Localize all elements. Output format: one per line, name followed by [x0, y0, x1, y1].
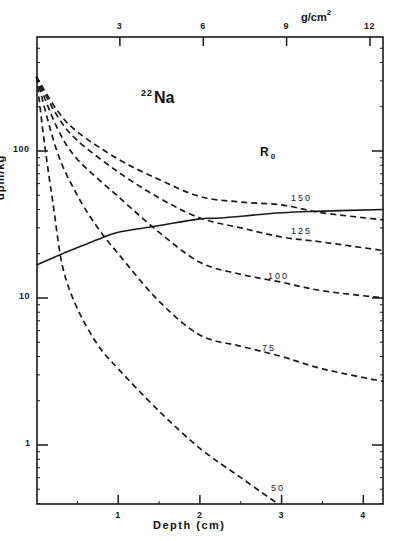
x2-tick-label: 12	[364, 21, 375, 31]
dashed-curve-r0-75	[37, 77, 384, 382]
curve-label-100: 100	[268, 271, 289, 281]
y-tick-label: 1	[25, 438, 31, 448]
x-tick-label: 4	[360, 510, 366, 520]
curve-label-75: 75	[262, 343, 276, 353]
curve-label-150: 150	[291, 193, 312, 203]
plot-border	[37, 37, 383, 504]
legend-title-base: R	[260, 145, 269, 159]
isotope-mass: 22	[141, 88, 153, 98]
curve-label-125: 125	[291, 226, 312, 236]
x2-tick-label: 6	[200, 21, 206, 31]
top-axis-unit-exp: 2	[327, 8, 331, 17]
legend-title-sub: 0	[271, 152, 275, 161]
x-tick-label: 2	[197, 510, 203, 520]
y-tick-label: 100	[13, 144, 30, 154]
top-axis-unit: g/cm2	[301, 8, 331, 23]
top-axis-unit-base: g/cm	[301, 11, 327, 23]
depth-profile-chart	[0, 0, 395, 541]
dashed-curve-r0-125	[37, 77, 384, 251]
solid-curve	[37, 210, 384, 265]
legend-title: R0	[260, 145, 275, 161]
x2-tick-label: 9	[284, 21, 290, 31]
data-curves	[37, 77, 384, 504]
dashed-curve-r0-100	[37, 77, 384, 298]
element-symbol: Na	[154, 89, 174, 106]
x-tick-label: 3	[279, 510, 285, 520]
plot-frame	[37, 37, 383, 504]
axis-ticks	[37, 37, 383, 504]
y-axis-label: dpm/kg	[0, 155, 6, 200]
dashed-curve-r0-150	[37, 77, 384, 220]
x-tick-label: 1	[115, 510, 121, 520]
curve-label-50: 50	[271, 483, 285, 493]
y-tick-label: 10	[19, 291, 30, 301]
x2-tick-label: 3	[117, 21, 123, 31]
x-axis-label: Depth (cm)	[153, 519, 225, 531]
dashed-curve-r0-50	[37, 77, 278, 504]
chart-title: 22Na	[141, 88, 174, 107]
